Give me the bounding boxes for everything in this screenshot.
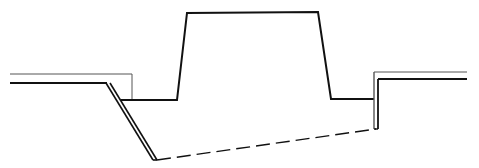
- left-slope-inner-line: [110, 83, 157, 160]
- left-slope-outer-line: [106, 83, 153, 160]
- right-ground-surface: [374, 72, 467, 79]
- right-vertical-wall: [374, 72, 378, 129]
- trapezoid-block-outline: [121, 12, 374, 100]
- cross-section-diagram: [0, 0, 479, 168]
- dashed-bottom-line: [157, 129, 376, 160]
